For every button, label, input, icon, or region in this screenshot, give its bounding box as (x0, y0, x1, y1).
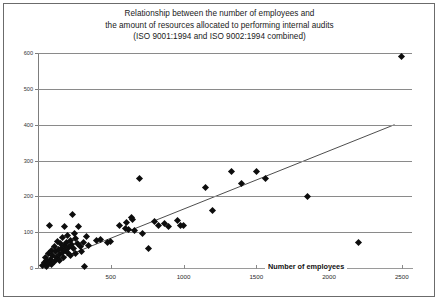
gridline-y-100 (38, 232, 412, 233)
y-tick-label-300: 300 (11, 158, 33, 164)
gridline-y-0 (38, 268, 412, 269)
y-tick-mark-0 (35, 268, 38, 269)
x-tick-label-1000: 1000 (164, 273, 204, 280)
y-tick-mark-300 (35, 161, 38, 162)
chart-title-line-1: Relationship between the number of emplo… (0, 8, 439, 20)
y-tick-label-0: 0 (11, 265, 33, 271)
chart-title-line-3: (ISO 9001:1994 and ISO 9002:1994 combine… (0, 31, 439, 43)
x-tick-mark-2000 (329, 265, 330, 269)
x-tick-mark-1000 (184, 265, 185, 269)
y-tick-mark-400 (35, 125, 38, 126)
x-tick-label-2000: 2000 (309, 273, 349, 280)
y-tick-label-200: 200 (11, 193, 33, 199)
gridline-y-200 (38, 196, 412, 197)
x-tick-label-500: 500 (91, 273, 131, 280)
x-tick-label-2500: 2500 (382, 273, 422, 280)
gridline-y-400 (38, 125, 412, 126)
chart-title-line-2: the amount of resources allocated to per… (0, 20, 439, 32)
y-tick-label-600: 600 (11, 50, 33, 56)
y-tick-mark-200 (35, 196, 38, 197)
gridline-y-500 (38, 89, 412, 90)
plot-area (38, 53, 412, 268)
y-tick-mark-600 (35, 53, 38, 54)
x-axis-label: Number of employees (265, 262, 347, 271)
x-tick-mark-1500 (256, 265, 257, 269)
gridline-y-300 (38, 161, 412, 162)
chart-title: Relationship between the number of emplo… (0, 8, 439, 43)
chart-figure: Relationship between the number of emplo… (0, 0, 439, 301)
y-tick-mark-100 (35, 232, 38, 233)
y-tick-label-500: 500 (11, 86, 33, 92)
x-tick-mark-2500 (402, 265, 403, 269)
gridline-y-600 (38, 53, 412, 54)
x-tick-mark-500 (111, 265, 112, 269)
y-tick-mark-500 (35, 89, 38, 90)
x-tick-label-1500: 1500 (236, 273, 276, 280)
y-tick-label-100: 100 (11, 229, 33, 235)
y-tick-label-400: 400 (11, 122, 33, 128)
